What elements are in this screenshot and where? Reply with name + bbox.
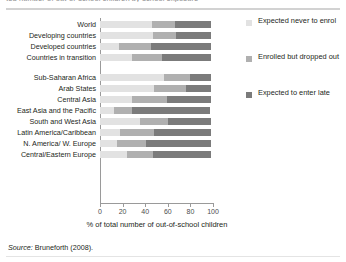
- stacked-bar: [100, 21, 211, 28]
- category-label: South and West Asia: [0, 116, 96, 127]
- stacked-bar: [100, 96, 211, 103]
- legend-swatch: [246, 56, 252, 62]
- x-tick-mark: [100, 203, 101, 207]
- bar-row: Developing countries: [0, 30, 346, 41]
- category-label: Countries in transition: [0, 52, 96, 63]
- bar-segment: [154, 85, 186, 92]
- x-axis-line: [100, 203, 214, 204]
- category-label: Central Asia: [0, 94, 96, 105]
- x-tick-mark: [168, 203, 169, 207]
- bar-segment: [132, 54, 163, 61]
- x-tick-mark: [213, 203, 214, 207]
- bar-row: N. America/ W. Europe: [0, 138, 346, 149]
- bar-segment: [162, 54, 211, 61]
- stacked-bar: [100, 140, 211, 147]
- x-tick-label: 80: [186, 208, 194, 215]
- bar-segment: [100, 54, 132, 61]
- x-tick-label: 100: [207, 208, 219, 215]
- bar-row: Central/Eastern Europe: [0, 149, 346, 160]
- x-tick-label: 0: [98, 208, 102, 215]
- bar-segment: [186, 85, 211, 92]
- bar-segment: [100, 118, 140, 125]
- bar-segment: [132, 96, 167, 103]
- chart-plot-area: WorldDeveloping countriesDeveloped count…: [0, 0, 346, 262]
- x-tick-mark: [190, 203, 191, 207]
- bar-segment: [140, 118, 168, 125]
- stacked-bar: [100, 118, 211, 125]
- bar-segment: [154, 129, 211, 136]
- bar-segment: [175, 21, 211, 28]
- category-label: East Asia and the Pacific: [0, 105, 96, 116]
- x-tick-label: 20: [119, 208, 127, 215]
- bar-segment: [164, 74, 190, 81]
- stacked-bar: [100, 74, 211, 81]
- bar-segment: [176, 32, 211, 39]
- bar-segment: [190, 74, 210, 81]
- bar-row: Developed countries: [0, 41, 346, 52]
- bar-segment: [151, 43, 211, 50]
- source-text: Bruneforth (2008).: [35, 243, 93, 252]
- legend-label: Expected to enter late: [258, 89, 344, 98]
- bar-row: South and West Asia: [0, 116, 346, 127]
- bar-segment: [167, 96, 211, 103]
- stacked-bar: [100, 107, 210, 114]
- stacked-bar: [100, 85, 211, 92]
- legend-label: Expected never to enrol: [258, 17, 344, 26]
- bar-segment: [119, 43, 151, 50]
- bar-segment: [100, 21, 152, 28]
- bar-segment: [153, 32, 176, 39]
- bar-segment: [127, 151, 153, 158]
- stacked-bar: [100, 32, 211, 39]
- bar-segment: [168, 118, 211, 125]
- bar-row: East Asia and the Pacific: [0, 105, 346, 116]
- bar-segment: [100, 43, 119, 50]
- bar-segment: [100, 140, 117, 147]
- bottom-divider-rule: [6, 256, 340, 257]
- bar-segment: [120, 129, 154, 136]
- bar-row: Sub-Saharan Africa: [0, 72, 346, 83]
- bar-segment: [153, 151, 211, 158]
- category-label: World: [0, 19, 96, 30]
- bar-segment: [100, 74, 164, 81]
- legend-swatch: [246, 92, 252, 98]
- bar-segment: [100, 32, 153, 39]
- category-label: Latin America/Caribbean: [0, 127, 96, 138]
- bar-segment: [132, 107, 210, 114]
- legend-label: Enrolled but dropped out: [258, 53, 344, 62]
- category-label: Developing countries: [0, 30, 96, 41]
- bar-segment: [100, 96, 132, 103]
- x-tick-mark: [145, 203, 146, 207]
- category-label: Sub-Saharan Africa: [0, 72, 96, 83]
- source-label: Source:: [8, 243, 33, 252]
- category-label: Developed countries: [0, 41, 96, 52]
- bar-row: Latin America/Caribbean: [0, 127, 346, 138]
- stacked-bar: [100, 129, 211, 136]
- stacked-bar: [100, 54, 211, 61]
- bar-segment: [114, 107, 132, 114]
- legend-swatch: [246, 20, 252, 26]
- bar-segment: [152, 21, 175, 28]
- source-note: Source: Bruneforth (2008).: [8, 243, 93, 252]
- bar-segment: [146, 140, 210, 147]
- bar-segment: [100, 85, 154, 92]
- x-tick-mark: [123, 203, 124, 207]
- x-axis-title: % of total number of out-of-school child…: [87, 220, 228, 229]
- category-label: Central/Eastern Europe: [0, 149, 96, 160]
- bar-segment: [100, 129, 120, 136]
- category-label: Arab States: [0, 83, 96, 94]
- stacked-bar: [100, 43, 211, 50]
- x-tick-label: 60: [164, 208, 172, 215]
- bar-segment: [117, 140, 146, 147]
- category-label: N. America/ W. Europe: [0, 138, 96, 149]
- stacked-bar: [100, 151, 211, 158]
- x-tick-label: 40: [141, 208, 149, 215]
- bar-segment: [100, 107, 114, 114]
- bar-segment: [100, 151, 127, 158]
